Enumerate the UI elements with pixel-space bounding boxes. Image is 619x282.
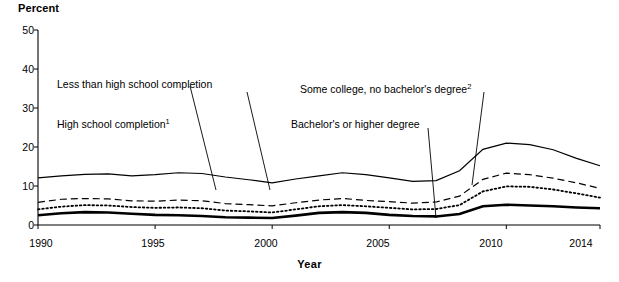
annotation-some-college-text: Some college, no bachelor's degree bbox=[300, 83, 467, 95]
annotation-high-school-completion-text: High school completion bbox=[57, 118, 166, 130]
leader-lines bbox=[190, 86, 484, 218]
annotation-high-school-completion: High school completion1 bbox=[57, 118, 170, 130]
x-tick-2014: 2014 bbox=[561, 238, 601, 249]
x-tick-2000: 2000 bbox=[246, 238, 286, 249]
x-tick-2010: 2010 bbox=[471, 238, 511, 249]
plot-area bbox=[0, 0, 619, 282]
x-axis-title: Year bbox=[0, 258, 619, 270]
annotation-bachelors-or-higher: Bachelor's or higher degree bbox=[291, 118, 420, 130]
leader-line-some-college bbox=[472, 92, 484, 185]
series-line-1 bbox=[38, 173, 600, 206]
annotation-less-than-high-school-text: Less than high school completion bbox=[57, 78, 212, 90]
leader-line-high-school-completion bbox=[247, 92, 270, 190]
y-axis-title: Percent bbox=[18, 2, 59, 14]
leader-line-less-than-high-school bbox=[190, 86, 216, 190]
y-tick-20: 20 bbox=[8, 142, 34, 153]
annotation-less-than-high-school: Less than high school completion bbox=[57, 78, 212, 90]
x-tick-1990: 1990 bbox=[21, 238, 61, 249]
footnote-marker-1: 1 bbox=[166, 117, 170, 126]
y-tick-10: 10 bbox=[8, 181, 34, 192]
y-tick-40: 40 bbox=[8, 64, 34, 75]
y-tick-50: 50 bbox=[8, 25, 34, 36]
y-tick-30: 30 bbox=[8, 103, 34, 114]
x-tick-1995: 1995 bbox=[133, 238, 173, 249]
leader-line-bachelors bbox=[428, 128, 436, 218]
x-tick-2005: 2005 bbox=[358, 238, 398, 249]
footnote-marker-2: 2 bbox=[467, 82, 471, 91]
education-unemployment-line-chart: Percent 50 40 30 20 10 0 1990 1995 2000 … bbox=[0, 0, 619, 282]
annotation-bachelors-or-higher-text: Bachelor's or higher degree bbox=[291, 118, 420, 130]
y-tick-0: 0 bbox=[8, 220, 34, 231]
annotation-some-college: Some college, no bachelor's degree2 bbox=[300, 83, 471, 95]
series-line-0 bbox=[38, 143, 600, 183]
series-paths bbox=[38, 143, 600, 218]
